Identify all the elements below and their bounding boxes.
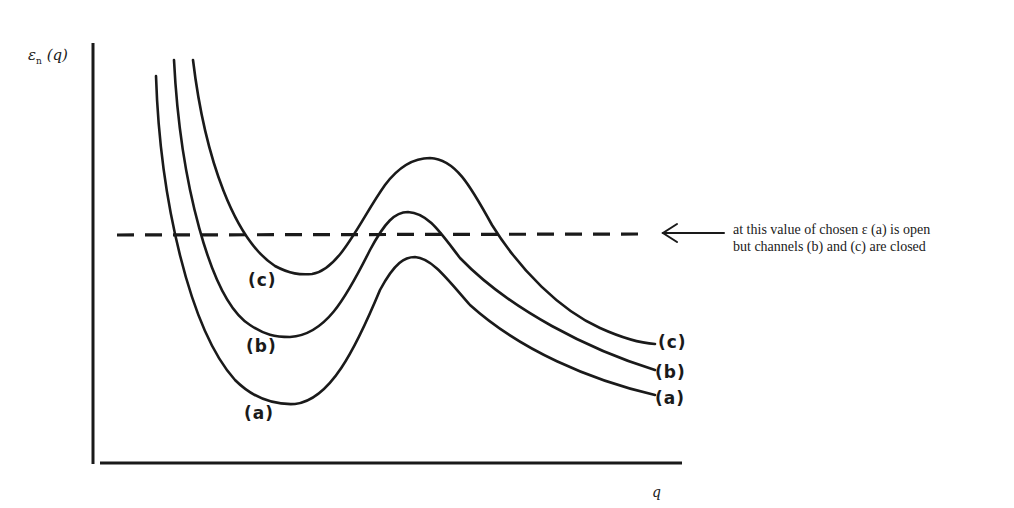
annotation-line-2: but channels (b) and (c) are closed <box>733 238 930 255</box>
y-axis-label: εn (q) <box>28 46 68 66</box>
curve-label-b-left: (b) <box>246 336 277 356</box>
curve-c <box>193 60 655 344</box>
annotation: at this value of chosen ε (a) is open bu… <box>733 221 930 255</box>
curve-label-a-left: (a) <box>244 403 274 423</box>
curve-label-c-right: (c) <box>658 332 687 352</box>
annotation-line-1: at this value of chosen ε (a) is open <box>733 221 930 238</box>
arrow-left-icon <box>663 224 724 242</box>
curve-label-c-left: (c) <box>248 270 277 290</box>
energy-diagram: εn (q) q (c) (b) (a) (c) (b) (a) at this… <box>0 0 1014 508</box>
curve-a <box>156 76 655 404</box>
curve-label-b-right: (b) <box>655 362 686 382</box>
curve-b <box>174 60 655 370</box>
curve-label-a-right: (a) <box>655 388 685 408</box>
chosen-energy-dashed-line <box>117 234 648 235</box>
x-axis-label: q <box>652 484 661 500</box>
y-axis-label-argument: (q) <box>42 46 68 64</box>
y-axis-label-symbol: ε <box>28 46 36 64</box>
